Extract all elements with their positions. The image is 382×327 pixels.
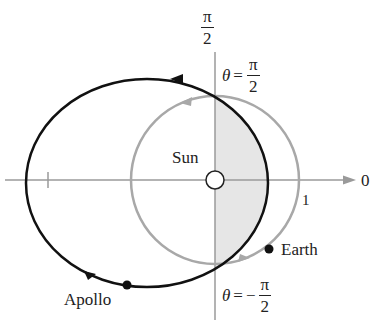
theta-symbol: θ	[222, 66, 230, 86]
equals-sign: =	[233, 286, 243, 306]
numerator: π	[247, 56, 260, 73]
denominator: 2	[247, 78, 260, 95]
fraction-bar	[259, 295, 272, 296]
axis-label-zero: 0	[361, 172, 370, 189]
angle-label-lower: θ = − π 2	[222, 276, 271, 315]
axis-arrow-icon	[343, 176, 356, 185]
theta-symbol: θ	[222, 286, 230, 306]
angle-label-upper: θ = π 2	[222, 56, 260, 95]
axis-label-pi-over-2: π 2	[201, 8, 214, 47]
unit-label: 1	[302, 193, 310, 208]
fraction: π 2	[247, 56, 260, 95]
sun-label: Sun	[172, 149, 198, 166]
apollo-label: Apollo	[64, 291, 111, 308]
fraction: π 2	[259, 276, 272, 315]
earth-direction-arrow-icon	[238, 254, 250, 262]
denominator: 2	[259, 298, 272, 315]
fraction-bar	[247, 75, 260, 76]
equals-sign: =	[233, 66, 243, 86]
apollo-marker	[123, 281, 132, 290]
numerator: π	[259, 276, 272, 293]
fraction-bar	[201, 27, 214, 28]
minus-sign: −	[246, 286, 256, 306]
sun-marker	[206, 171, 224, 189]
numerator: π	[201, 8, 214, 25]
earth-marker	[265, 245, 274, 254]
earth-label: Earth	[281, 241, 318, 258]
denominator: 2	[201, 30, 214, 47]
